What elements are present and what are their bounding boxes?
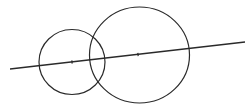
secant-line [10,42,245,69]
geometry-diagram [0,0,246,106]
diagram-canvas [0,0,246,106]
